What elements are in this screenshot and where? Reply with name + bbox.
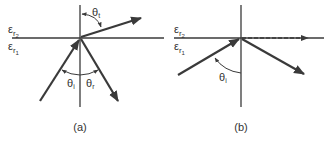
incident-ray: [40, 40, 79, 101]
incident-ray: [178, 39, 239, 75]
panel-a: εr2 εr1 θt θi θr (a): [8, 5, 164, 133]
reflected-ray: [81, 39, 118, 101]
epsilon-r2-label: εr2: [174, 23, 186, 39]
panel-b-caption: (b): [234, 121, 247, 133]
theta-i-label: θi: [67, 77, 75, 90]
refraction-diagram: εr2 εr1 θt θi θr (a) εr2 εr1: [0, 0, 336, 144]
theta-t-label: θt: [92, 6, 100, 19]
reflected-ray: [242, 39, 304, 74]
theta-i-label: θi: [219, 71, 227, 84]
transmitted-ray: [81, 18, 141, 37]
panel-a-caption: (a): [73, 121, 86, 133]
panel-b: εr2 εr1 θi (b): [174, 5, 324, 133]
theta-r-label: θr: [86, 77, 95, 90]
epsilon-r1-label: εr1: [174, 40, 186, 56]
epsilon-r1-label: εr1: [8, 40, 20, 56]
epsilon-r2-label: εr2: [8, 23, 20, 39]
